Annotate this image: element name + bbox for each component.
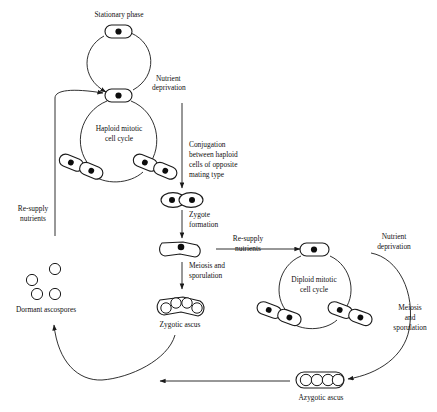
label-resupply-left-line1: Re-supply (18, 204, 49, 213)
label-stationary-phase: Stationary phase (94, 10, 144, 19)
label-conjugation-line4: mating type (189, 170, 225, 179)
label-zygote-formation-line1: Zygote (189, 210, 211, 219)
label-meiosis-center-line1: Meiosis and (189, 261, 225, 270)
stationary-phase-cell (105, 25, 132, 38)
label-haploid-cycle-line2: cell cycle (105, 134, 134, 143)
zygotic-ascus (157, 297, 204, 316)
label-conjugation-line2: between haploid (189, 150, 238, 159)
label-azygotic-ascus: Azygotic ascus (299, 393, 344, 402)
stationary-phase-loop (87, 33, 151, 92)
label-meiosis-right-line2: and (405, 313, 416, 322)
label-meiosis-right-line1: Meiosis (398, 303, 422, 312)
label-meiosis-center-line2: sporulation (189, 271, 223, 280)
haploid-budding-cell-right (131, 152, 178, 181)
label-resupply-mid-line2: nutrients (235, 244, 261, 253)
label-meiosis-right-line3: sporulation (393, 323, 427, 332)
yeast-life-cycle-diagram: Stationary phase Nutrient deprivation Ha… (0, 0, 437, 412)
label-diploid-cycle-line1: Diploid mitotic (291, 275, 337, 284)
label-nutrient-deprivation-right-line2: deprivation (377, 242, 411, 251)
path-zygotic-ascus-to-spores (54, 325, 175, 380)
label-zygote-formation-line2: formation (189, 220, 218, 229)
conjugating-cell-pair (161, 193, 203, 208)
label-nutrient-deprivation-top-line2: deprivation (152, 83, 186, 92)
label-haploid-cycle-line1: Haploid mitotic (96, 124, 143, 133)
haploid-budding-cell-left (57, 152, 104, 181)
label-dormant-ascospores: Dormant ascospores (16, 305, 76, 314)
haploid-cell (105, 89, 132, 102)
diploid-budding-cell-left (255, 300, 302, 327)
label-diploid-cycle-line2: cell cycle (300, 285, 329, 294)
dormant-ascospores (26, 263, 60, 299)
label-nutrient-deprivation-right-line1: Nutrient (382, 232, 408, 241)
label-conjugation-line3: cells of opposite (189, 160, 238, 169)
label-resupply-left-line2: nutrients (20, 214, 46, 223)
label-resupply-mid-line1: Re-supply (233, 234, 264, 243)
label-conjugation-line1: Conjugation (189, 140, 226, 149)
figure-canvas: Stationary phase Nutrient deprivation Ha… (0, 0, 437, 412)
zygote-cell (160, 242, 201, 257)
label-zygotic-ascus: Zygotic ascus (160, 320, 201, 329)
diploid-cell (300, 243, 329, 256)
azygotic-ascus (296, 372, 344, 388)
label-nutrient-deprivation-top-line1: Nutrient (156, 74, 182, 83)
